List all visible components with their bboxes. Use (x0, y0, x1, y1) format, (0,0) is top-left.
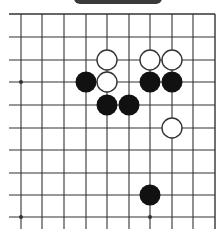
black-stone (140, 72, 161, 93)
white-stone (162, 50, 182, 70)
star-point (148, 215, 152, 219)
black-stone (76, 72, 97, 93)
star-point (19, 80, 23, 84)
white-stone (97, 50, 117, 70)
black-stone (140, 185, 161, 206)
grid-lines (9, 14, 215, 229)
star-point (19, 215, 23, 219)
white-stone (162, 118, 182, 138)
white-stone (140, 50, 160, 70)
white-stone (97, 72, 117, 92)
black-stone (162, 72, 183, 93)
black-stone (119, 95, 140, 116)
black-stone (97, 95, 118, 116)
go-board[interactable] (0, 0, 224, 235)
